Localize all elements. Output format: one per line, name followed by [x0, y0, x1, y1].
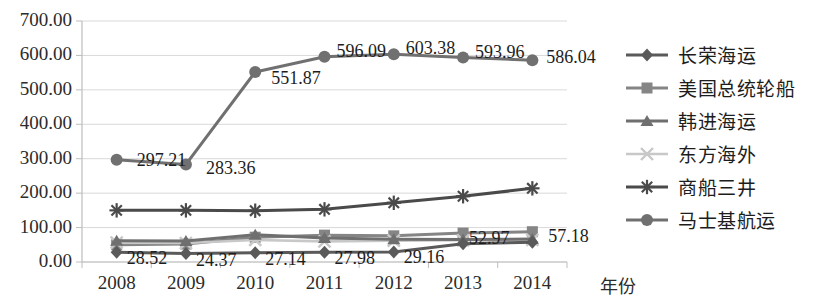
legend-item-0[interactable]: 长荣海运: [624, 38, 814, 71]
legend-item-2[interactable]: 韩进海运: [624, 104, 814, 137]
legend-marker-square-icon: [624, 78, 670, 98]
legend-label: 长荣海运: [678, 41, 756, 68]
data-label-maersk: 603.38: [406, 38, 456, 59]
x-axis-tick-label: 2008: [77, 272, 157, 294]
x-axis-tick-label: 2012: [354, 272, 434, 294]
legend-label: 韩进海运: [678, 107, 756, 134]
legend-marker-asterisk-icon: [624, 177, 670, 197]
legend-marker-cross-icon: [624, 144, 670, 164]
x-axis-tick-label: 2014: [492, 272, 572, 294]
data-label-maersk: 586.04: [546, 47, 596, 68]
x-axis-tick-label: 2013: [423, 272, 503, 294]
legend-label: 商船三井: [678, 173, 756, 200]
data-label-maersk: 551.87: [271, 68, 321, 89]
x-axis-tick-label: 2009: [146, 272, 226, 294]
data-label-evergreen: 24.37: [196, 250, 237, 271]
x-axis-title: 年份: [600, 272, 636, 298]
legend-label: 东方海外: [678, 140, 756, 167]
legend-item-5[interactable]: 马士基航运: [624, 203, 814, 236]
data-label-evergreen: 27.98: [335, 248, 376, 269]
data-label-evergreen: 52.97: [469, 228, 510, 249]
x-axis-tick-label: 2010: [215, 272, 295, 294]
data-label-evergreen: 29.16: [404, 247, 445, 268]
legend-marker-diamond-icon: [624, 45, 670, 65]
legend-item-3[interactable]: 东方海外: [624, 137, 814, 170]
legend-marker-triangle-icon: [624, 111, 670, 131]
data-label-evergreen: 57.18: [548, 226, 589, 247]
data-label-maersk: 593.96: [475, 42, 525, 63]
x-axis-tick-label: 2011: [285, 272, 365, 294]
legend-item-1[interactable]: 美国总统轮船: [624, 71, 814, 104]
series-4: [109, 181, 539, 218]
data-label-evergreen: 27.14: [265, 249, 306, 270]
data-label-maersk: 297.21: [137, 150, 187, 171]
data-label-evergreen: 28.52: [127, 248, 168, 269]
data-label-maersk: 596.09: [337, 41, 387, 62]
data-label-maersk: 283.36: [206, 158, 256, 179]
legend-label: 美国总统轮船: [678, 74, 795, 101]
legend-item-4[interactable]: 商船三井: [624, 170, 814, 203]
line-chart: 700.00600.00500.00400.00300.00200.00100.…: [0, 0, 815, 299]
chart-legend: 长荣海运美国总统轮船韩进海运东方海外商船三井马士基航运: [624, 38, 814, 236]
legend-marker-circle-icon: [624, 210, 670, 230]
legend-label: 马士基航运: [678, 206, 776, 233]
